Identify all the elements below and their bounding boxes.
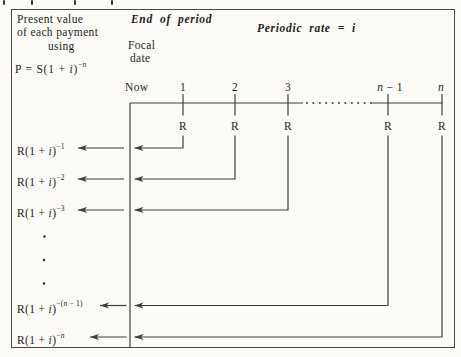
cropped-caption-fragment: [31, 0, 33, 5]
term-base: R(1 +: [17, 207, 49, 219]
tick-rest: − 1: [383, 81, 402, 93]
tick-label-2: 2: [232, 81, 238, 94]
formula-base: P = S(1 +: [15, 63, 69, 75]
pv-term-label-1: R(1 + i)−1: [17, 141, 65, 158]
focal-date-label-line2: date: [130, 52, 151, 65]
term-base: R(1 +: [17, 145, 49, 157]
term-base: R(1 +: [17, 334, 49, 346]
focal-date-label-line1: Focal: [128, 39, 155, 52]
pv-term-label-2: R(1 + i)−2: [17, 172, 65, 189]
term-sup-pre: −1: [56, 142, 64, 151]
term-exponent: −1: [56, 142, 64, 151]
pv-term-label-n: R(1 + i)−n: [17, 330, 65, 347]
now-label: Now: [125, 81, 148, 94]
pv-heading-line3: using: [48, 40, 75, 53]
payment-label-3: R: [284, 120, 292, 133]
term-sup-pre: −3: [56, 204, 64, 213]
term-sup-pre: −2: [56, 173, 64, 182]
cropped-caption-fragment: [74, 0, 76, 5]
pv-term-label-n-minus-1: R(1 + i)−(n − 1): [17, 299, 83, 316]
term-exponent: −(n − 1): [56, 299, 82, 308]
tick-label-3: 3: [285, 81, 291, 94]
cropped-caption-fragment: [111, 0, 113, 5]
tick-text: 1: [180, 81, 186, 93]
annuity-present-value-figure: Present value of each payment using P = …: [0, 0, 461, 357]
pv-heading-line1: Present value: [17, 13, 83, 26]
term-exponent: −3: [56, 204, 64, 213]
term-exponent: −n: [56, 331, 64, 340]
payment-label-2: R: [231, 120, 239, 133]
formula-sup-n: n: [83, 60, 87, 69]
pv-heading-line2: of each payment: [17, 26, 98, 39]
tick-label-1: 1: [180, 81, 186, 94]
tick-label-n-minus-1: n − 1: [377, 81, 403, 94]
term-exponent: −2: [56, 173, 64, 182]
term-sup-var: n: [61, 331, 65, 340]
pv-formula: P = S(1 + i)−n: [15, 59, 86, 76]
payment-label-n: R: [438, 120, 446, 133]
tick-var: n: [438, 81, 444, 93]
term-base: R(1 +: [17, 176, 49, 188]
formula-exponent: −n: [78, 60, 86, 69]
term-sup-post: − 1): [67, 299, 82, 308]
term-base: R(1 +: [17, 302, 49, 314]
cropped-caption-fragment: [3, 0, 5, 5]
periodic-rate-heading: Periodic rate = i: [257, 22, 356, 35]
tick-text: 2: [232, 81, 238, 93]
pv-term-label-3: R(1 + i)−3: [17, 203, 65, 220]
tick-text: 3: [285, 81, 291, 93]
end-of-period-heading: End of period: [131, 13, 212, 26]
payment-label-n-minus-1: R: [384, 120, 392, 133]
tick-label-n: n: [438, 81, 444, 94]
payment-label-1: R: [179, 120, 187, 133]
